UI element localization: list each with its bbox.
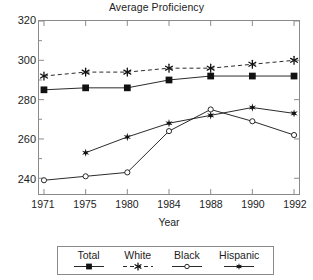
- x-axis-label: Year: [38, 216, 300, 228]
- data-point-filled-star: [124, 133, 131, 141]
- data-point-filled-square: [124, 84, 131, 91]
- y-tick-label: 300: [2, 54, 36, 66]
- chart-figure: Average Proficiency 320300280260240 1971…: [0, 0, 313, 280]
- legend-item-label: Total: [77, 250, 99, 261]
- x-tick-label: 1984: [157, 198, 180, 210]
- data-point-filled-star: [165, 119, 172, 127]
- series-hispanic: [82, 103, 298, 157]
- x-axis-tick-labels: 1971197519801984198819901992: [0, 198, 313, 214]
- plot-area: [38, 20, 300, 195]
- x-tick-label: 1992: [283, 198, 306, 210]
- legend-swatch-filled-star: [222, 262, 256, 271]
- data-point-open-circle: [185, 264, 189, 268]
- chart-title: Average Proficiency: [0, 1, 313, 13]
- legend-item-total[interactable]: Total: [72, 250, 106, 271]
- y-tick-label: 320: [2, 14, 36, 26]
- data-point-filled-square: [166, 77, 173, 84]
- data-point-filled-star: [207, 111, 214, 119]
- y-axis-tick-labels: 320300280260240: [0, 0, 36, 280]
- data-point-filled-square: [86, 264, 92, 270]
- axis-ticks: [39, 21, 299, 194]
- data-point-open-circle: [83, 174, 88, 179]
- data-point-filled-square: [207, 73, 214, 80]
- legend-item-black[interactable]: Black: [170, 250, 204, 271]
- data-point-filled-star: [82, 149, 89, 157]
- legend-item-white[interactable]: White: [121, 250, 155, 271]
- data-point-open-circle: [125, 170, 130, 175]
- data-point-filled-square: [249, 73, 256, 80]
- y-tick-label: 260: [2, 133, 36, 145]
- x-tick-label: 1980: [115, 198, 138, 210]
- legend-swatch-filled-square: [72, 262, 106, 271]
- data-point-filled-square: [82, 84, 89, 91]
- series-black: [41, 107, 296, 183]
- legend-entries: TotalWhiteBlackHispanic: [58, 247, 273, 274]
- x-tick-label: 1990: [241, 198, 264, 210]
- chart-legend: TotalWhiteBlackHispanic: [57, 246, 274, 275]
- legend-item-label: White: [124, 250, 151, 261]
- series-total: [41, 73, 298, 93]
- legend-swatch-asterisk: [121, 262, 155, 271]
- y-tick-label: 280: [2, 94, 36, 106]
- data-point-open-circle: [250, 119, 255, 124]
- data-point-filled-square: [41, 86, 48, 93]
- data-point-open-circle: [41, 178, 46, 183]
- legend-swatch-open-circle: [170, 262, 204, 271]
- data-point-open-circle: [291, 132, 296, 137]
- x-tick-label: 1975: [73, 198, 96, 210]
- x-tick-label: 1988: [199, 198, 222, 210]
- y-tick-label: 240: [2, 173, 36, 185]
- data-point-filled-square: [291, 73, 298, 80]
- series-svg: [39, 21, 299, 194]
- legend-item-label: Black: [174, 250, 200, 261]
- legend-item-label: Hispanic: [219, 250, 259, 261]
- legend-item-hispanic[interactable]: Hispanic: [219, 250, 259, 271]
- data-point-open-circle: [166, 129, 171, 134]
- x-tick-label: 1971: [31, 198, 54, 210]
